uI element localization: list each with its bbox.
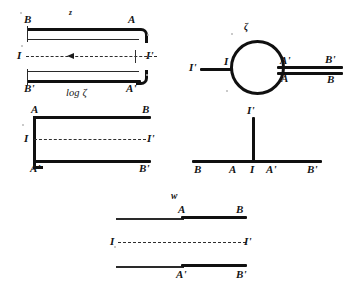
label-mid-right-I-prime: I' (146, 50, 154, 61)
hairpin-upper-thin-edge (27, 39, 139, 40)
label-bottom-right-A-prime: A' (126, 83, 137, 94)
plane-label-zeta: ζ (244, 23, 248, 33)
tee-label-I: I (250, 164, 254, 175)
strip-top-edge (33, 116, 151, 119)
circle-left-stem (200, 68, 232, 71)
scan-artifact (21, 45, 23, 47)
figure-canvas: z B A I I' B' A' log ζ A B I I' A' B (0, 0, 357, 293)
circle-label-I-prime-outer: I' (189, 62, 197, 73)
scan-artifact (20, 12, 22, 14)
tee-horizontal-axis (192, 160, 322, 163)
strip-bottom-edge (33, 160, 151, 163)
hairpin-lower-thin-edge (27, 71, 139, 72)
strip-label-mid-right-I-prime: I' (147, 133, 155, 144)
tee-label-B-prime: B' (307, 164, 318, 175)
scan-artifact (231, 33, 233, 35)
label-bottom-left-B-prime: B' (24, 83, 35, 94)
flow-dashed-line (26, 56, 157, 57)
scan-artifact (226, 90, 228, 92)
w-label-lower-A-prime: A' (176, 269, 187, 280)
sub-label-log-zeta: log ζ (66, 88, 87, 99)
plane-label-w: w (171, 192, 177, 202)
w-label-upper-A: A (178, 204, 185, 215)
label-top-right-A: A (128, 14, 135, 25)
strip-label-bottom-right-B-prime: B' (139, 163, 150, 174)
hairpin-lower-thick-edge (27, 80, 141, 83)
w-label-upper-B: B (236, 204, 243, 215)
scan-artifact (147, 34, 149, 36)
label-mid-left-I: I (17, 50, 21, 61)
w-label-lower-B-prime: B' (236, 269, 247, 280)
circle-label-I-inner: I (224, 56, 228, 67)
strip-center-dashed-line (34, 139, 146, 140)
tee-label-A: A (229, 164, 236, 175)
strip-label-bottom-left-A-prime: A' (30, 163, 41, 174)
circle-label-B: B (327, 74, 334, 85)
left-arrow-icon (67, 53, 74, 59)
w-label-dash-right-I-prime: I' (244, 236, 252, 247)
branch-point-tick (135, 50, 136, 63)
circle-slit-upper (277, 66, 343, 69)
strip-label-top-right-B: B (142, 104, 149, 115)
hairpin-upper-left-cap (27, 26, 28, 42)
w-lower-thick-slit (181, 264, 247, 267)
tee-vertical-stem (252, 117, 255, 162)
circle-label-A-prime: A' (280, 55, 291, 66)
scan-artifact (22, 124, 24, 126)
hairpin-upper-thick-edge (27, 28, 141, 31)
tee-label-B: B (194, 164, 201, 175)
strip-label-mid-left-I: I (24, 133, 28, 144)
scan-artifact (114, 246, 116, 248)
w-upper-thick-slit (181, 216, 247, 219)
w-center-dashed-line (118, 242, 246, 243)
plane-label-z: z (69, 9, 72, 17)
scan-artifact (146, 74, 148, 76)
label-top-left-B: B (24, 14, 31, 25)
strip-label-top-left-A: A (31, 104, 38, 115)
tee-label-A-prime: A' (266, 164, 277, 175)
tee-label-I-prime: I' (247, 105, 255, 116)
w-upper-thin-ray (116, 218, 184, 220)
w-lower-thin-ray (116, 266, 184, 268)
circle-label-B-prime: B' (325, 54, 336, 65)
